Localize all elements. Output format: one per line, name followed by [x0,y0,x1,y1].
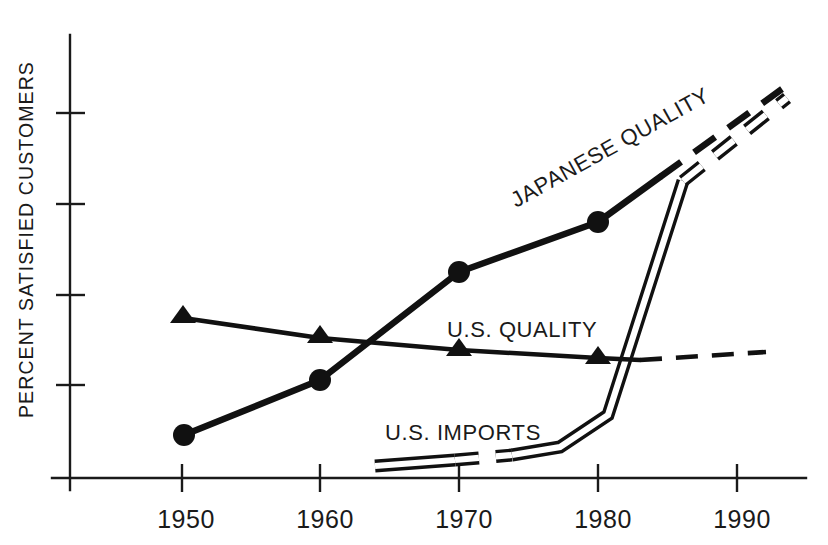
x-tick-label-1990: 1990 [713,505,771,533]
japanese-quality-marker-1970 [448,261,470,283]
x-tick-label-1950: 1950 [157,505,215,533]
x-tick-label-1960: 1960 [296,505,354,533]
annotation-us-imports: U.S. IMPORTS [385,420,541,445]
us-quality-line-projection [640,352,766,360]
us-quality-marker-1980 [585,346,611,364]
japanese-quality-marker-1960 [309,369,331,391]
series-annotations: JAPANESE QUALITY U.S. QUALITY U.S. IMPOR… [385,82,714,445]
x-tick-label-1980: 1980 [574,505,632,533]
x-axis-tick-labels: 1950 1960 1970 1980 1990 [157,505,771,533]
x-tick-label-1970: 1970 [435,505,493,533]
us-quality-marker-1950 [170,305,196,323]
chart-container: 1950 1960 1970 1980 1990 PERCENT SATISFI… [0,0,828,545]
japanese-quality-line [184,177,660,435]
japanese-quality-marker-1950 [173,424,195,446]
annotation-us-quality: U.S. QUALITY [447,317,597,342]
us-quality-marker-1960 [307,325,333,343]
chart-canvas: 1950 1960 1970 1980 1990 PERCENT SATISFI… [0,0,828,545]
y-axis-title: PERCENT SATISFIED CUSTOMERS [15,61,37,418]
japanese-quality-marker-1980 [587,211,609,233]
series-japanese-quality [173,89,782,446]
